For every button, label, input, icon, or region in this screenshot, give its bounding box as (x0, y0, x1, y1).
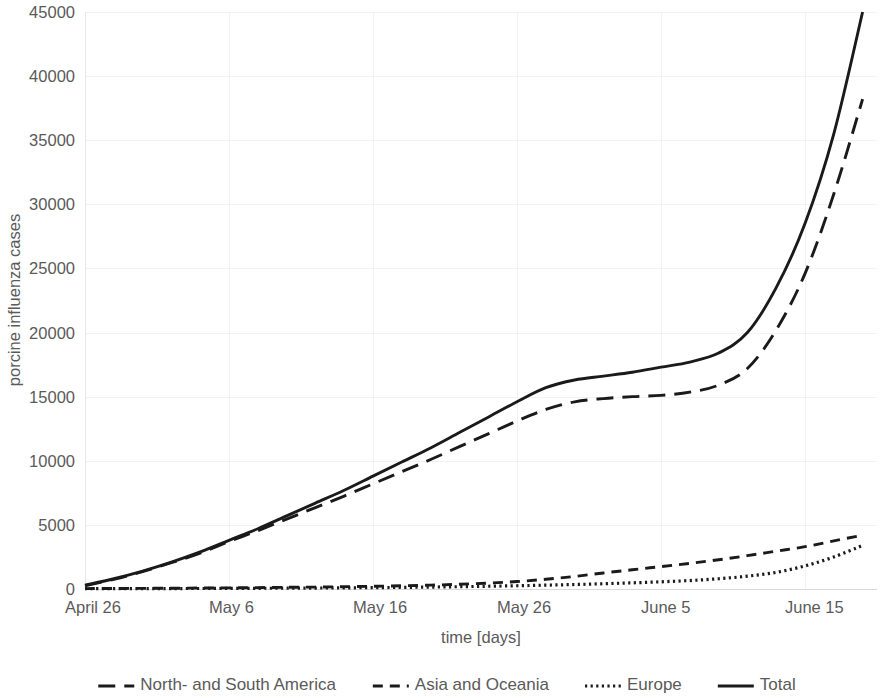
legend-label: Total (760, 675, 796, 694)
x-axis-tick-label: May 6 (209, 598, 254, 616)
y-axis-tick-label: 35000 (29, 131, 75, 149)
legend-label: North- and South America (140, 675, 336, 694)
horizontal-gridlines (85, 13, 877, 526)
y-axis-tick-label: 45000 (29, 3, 75, 21)
y-axis-tick-label: 30000 (29, 195, 75, 213)
x-axis-tick-label: June 5 (641, 598, 691, 616)
legend-item[interactable]: Europe (585, 675, 682, 694)
series-line-asia-and-oceania (85, 535, 863, 588)
x-axis-tick-labels: April 26May 6May 16May 26June 5June 15 (65, 598, 844, 616)
data-series-group (85, 12, 863, 589)
legend-item[interactable]: Total (718, 675, 796, 694)
y-axis-tick-label: 25000 (29, 259, 75, 277)
y-axis-tick-label: 10000 (29, 452, 75, 470)
y-axis-tick-label: 15000 (29, 388, 75, 406)
legend-label: Asia and Oceania (415, 675, 550, 694)
series-line-north-and-south-america (85, 99, 863, 586)
x-axis-tick-label: June 15 (785, 598, 844, 616)
x-axis-tick-label: April 26 (65, 598, 121, 616)
y-axis-title: porcine influenza cases (5, 214, 23, 386)
chart-legend: North- and South AmericaAsia and Oceania… (98, 675, 795, 694)
y-axis-tick-label: 0 (66, 580, 75, 598)
y-axis-tick-label: 20000 (29, 324, 75, 342)
legend-item[interactable]: Asia and Oceania (373, 675, 550, 694)
series-line-total (85, 12, 863, 585)
legend-label: Europe (627, 675, 682, 694)
y-axis-tick-label: 40000 (29, 67, 75, 85)
x-axis-tick-label: May 26 (497, 598, 551, 616)
chart-svg: 0500010000150002000025000300003500040000… (0, 0, 894, 698)
x-axis-tick-label: May 16 (353, 598, 407, 616)
x-axis-title: time [days] (441, 628, 521, 646)
legend-item[interactable]: North- and South America (98, 675, 336, 694)
chart-container: 0500010000150002000025000300003500040000… (0, 0, 894, 698)
axis-lines (85, 12, 877, 590)
y-axis-tick-labels: 0500010000150002000025000300003500040000… (29, 3, 75, 598)
y-axis-tick-label: 5000 (38, 516, 75, 534)
